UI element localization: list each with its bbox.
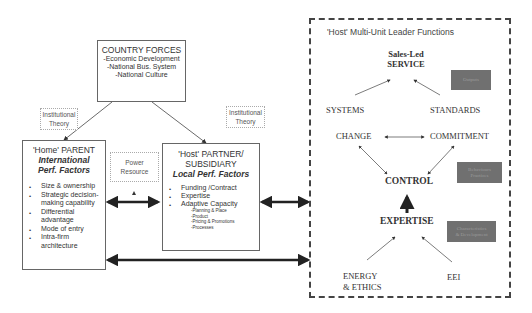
parent-subtitle: International bbox=[23, 155, 105, 165]
parent-subtitle: Perf. Factors bbox=[23, 165, 105, 175]
characteristics-label-box: Characteristics & Development bbox=[447, 221, 496, 242]
parent-factor: Strategic decision-making capability bbox=[29, 191, 101, 208]
energy-ethics-node: ENERGY & ETHICS bbox=[343, 271, 382, 293]
energy-label: ENERGY bbox=[343, 271, 382, 282]
partner-title: 'Host' PARTNER/ bbox=[163, 149, 259, 159]
institutional-theory-label: Theory bbox=[41, 119, 77, 128]
partner-factor: Funding /Contract bbox=[169, 184, 257, 192]
behaviours-label: Practices bbox=[470, 173, 488, 179]
country-forces-title: COUNTRY FORCES bbox=[98, 45, 185, 55]
eei-node: EEI bbox=[447, 272, 460, 282]
country-forces-item: -National Bus. System bbox=[98, 63, 185, 71]
country-forces-item: -Economic Development bbox=[98, 55, 185, 63]
institutional-theory-label: Theory bbox=[227, 117, 264, 126]
power-indicator-arrow bbox=[132, 191, 136, 195]
host-partner-box: 'Host' PARTNER/ SUBSIDIARY Local Perf. F… bbox=[162, 143, 260, 251]
institutional-theory-label: Institutional bbox=[227, 108, 264, 117]
service-label: SERVICE bbox=[375, 59, 437, 69]
parent-title: 'Home' PARENT bbox=[23, 145, 105, 155]
power-resource-box: Power Resource bbox=[110, 152, 159, 182]
commitment-node: COMMITMENT bbox=[430, 131, 489, 141]
partner-subtitle: Local Perf. Factors bbox=[163, 169, 259, 180]
arrow-country-to-partner bbox=[152, 102, 206, 143]
institutional-theory-left: Institutional Theory bbox=[40, 108, 78, 130]
expertise-node: EXPERTISE bbox=[380, 216, 434, 226]
adaptive-capacity-item: -Processes bbox=[191, 225, 259, 231]
partner-factor: Adaptive Capacity bbox=[169, 200, 257, 208]
parent-factor: Differential advantage bbox=[29, 208, 89, 225]
institutional-theory-right: Institutional Theory bbox=[226, 106, 265, 128]
service-label: Sales-Led bbox=[375, 49, 437, 59]
service-node: Sales-Led SERVICE bbox=[375, 49, 437, 69]
parent-factor: Mode of entry bbox=[29, 225, 103, 234]
power-resource-label: Resource bbox=[111, 167, 158, 176]
institutional-theory-label: Institutional bbox=[41, 110, 77, 119]
systems-node: SYSTEMS bbox=[326, 105, 364, 115]
characteristics-label: & Development bbox=[455, 232, 487, 238]
outputs-label-box: Outputs bbox=[451, 70, 491, 90]
standards-node: STANDARDS bbox=[430, 105, 480, 115]
behaviours-label-box: Behaviours Practices bbox=[457, 162, 502, 183]
power-resource-label: Power bbox=[111, 158, 158, 167]
parent-factor: Size & ownership bbox=[29, 182, 103, 191]
outputs-label: Outputs bbox=[463, 77, 479, 83]
control-node: CONTROL bbox=[385, 176, 433, 186]
partner-factor: Expertise bbox=[169, 192, 257, 200]
home-parent-box: 'Home' PARENT International Perf. Factor… bbox=[22, 140, 106, 270]
partner-title: SUBSIDIARY bbox=[163, 159, 259, 169]
country-forces-item: -National Culture bbox=[98, 71, 185, 79]
change-node: CHANGE bbox=[336, 131, 371, 141]
parent-factor: Intra-firm architecture bbox=[29, 233, 81, 250]
country-forces-box: COUNTRY FORCES -Economic Development -Na… bbox=[97, 40, 186, 102]
host-functions-title: 'Host' Multi-Unit Leader Functions bbox=[327, 27, 454, 37]
ethics-label: & ETHICS bbox=[343, 282, 382, 293]
